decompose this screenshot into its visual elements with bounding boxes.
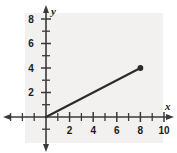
y-axis-down-arrowhead [43,144,49,152]
x-tick-label-2: 2 [61,126,79,136]
y-axis-label: y [51,6,56,17]
x-tick-label-6: 6 [108,126,126,136]
y-tick-label-8: 8 [22,15,40,25]
data-endpoint-marker [138,65,144,71]
x-axis-left-arrowhead [3,114,11,120]
x-tick-label-4: 4 [84,126,102,136]
y-tick-label-2: 2 [22,88,40,98]
data-line-segment [46,68,140,117]
y-tick-label-4: 4 [22,64,40,74]
y-axis-up-arrowhead [43,5,49,13]
x-tick-label-8: 8 [131,126,149,136]
x-axis-label: x [165,101,171,112]
chart-figure: y x 2 4 6 8 10 2 4 6 8 [0,0,177,153]
x-axis-right-arrowhead [166,114,174,120]
y-tick-label-6: 6 [22,39,40,49]
x-tick-label-10: 10 [155,126,173,136]
